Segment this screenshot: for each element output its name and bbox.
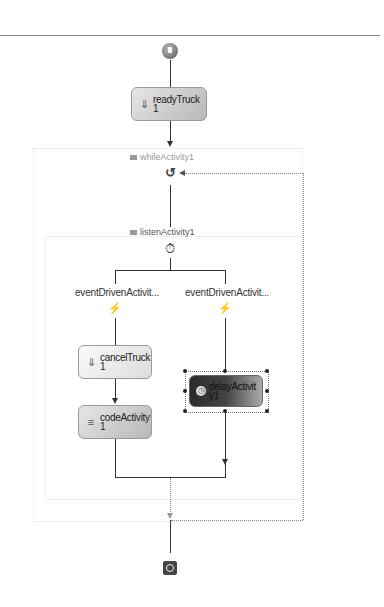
event-driven-icon: ⚡ (218, 301, 232, 315)
branch-connector (115, 270, 226, 271)
connector (170, 258, 171, 270)
loop-connector (185, 173, 303, 174)
activity-canceltruck[interactable]: ⇓ cancelTruck 1 (78, 345, 152, 379)
connector (170, 121, 171, 143)
branch-label-left[interactable]: eventDrivenActivit... (75, 287, 159, 298)
header-divider (0, 35, 380, 36)
event-driven-icon: ⚡ (108, 301, 122, 315)
arrow-down-icon (167, 513, 173, 519)
start-icon[interactable] (162, 43, 178, 59)
code-icon: ≡ (85, 416, 97, 428)
connector (225, 465, 226, 477)
event-sink-icon: ⇓ (138, 98, 150, 110)
activity-label: cancelTruck 1 (100, 353, 150, 371)
activity-label: delayActivit y1 (209, 382, 256, 400)
collapse-toggle-icon[interactable] (130, 230, 137, 235)
activity-label: readyTruck 1 (153, 95, 200, 113)
connector (115, 379, 116, 400)
clock-icon: ◷ (196, 386, 206, 396)
resize-handle[interactable] (223, 369, 227, 373)
loop-icon: ↺ (163, 166, 177, 180)
connector (170, 520, 171, 553)
connector (115, 439, 116, 477)
connector (170, 478, 171, 514)
connector (170, 60, 171, 87)
connector (225, 270, 226, 284)
loop-connector (171, 520, 303, 521)
listen-icon: ⏱ (163, 242, 177, 256)
resize-handle[interactable] (265, 389, 269, 393)
connector (225, 411, 226, 465)
while-activity-label[interactable]: whileActivity1 (130, 152, 194, 162)
stop-icon[interactable] (163, 561, 177, 575)
loop-connector (303, 173, 304, 520)
connector (170, 185, 171, 227)
branch-label-right[interactable]: eventDrivenActivit... (185, 287, 269, 298)
activity-readytruck[interactable]: ⇓ readyTruck 1 (131, 87, 207, 121)
arrow-down-icon (112, 398, 118, 404)
resize-handle[interactable] (183, 389, 187, 393)
activity-codeactivity[interactable]: ≡ codeActivity 1 (78, 405, 152, 439)
event-sink-icon: ⇓ (85, 356, 97, 368)
resize-handle[interactable] (183, 369, 187, 373)
listen-activity-label[interactable]: listenActivity1 (130, 227, 195, 237)
resize-handle[interactable] (265, 409, 269, 413)
activity-label: codeActivity 1 (100, 413, 150, 431)
resize-handle[interactable] (265, 369, 269, 373)
collapse-toggle-icon[interactable] (130, 155, 137, 160)
connector (115, 270, 116, 284)
arrow-down-icon (167, 141, 173, 147)
activity-delayactivity[interactable]: ◷ delayActivit y1 (189, 375, 263, 407)
resize-handle[interactable] (183, 409, 187, 413)
connector (225, 318, 226, 372)
connector (115, 318, 116, 345)
